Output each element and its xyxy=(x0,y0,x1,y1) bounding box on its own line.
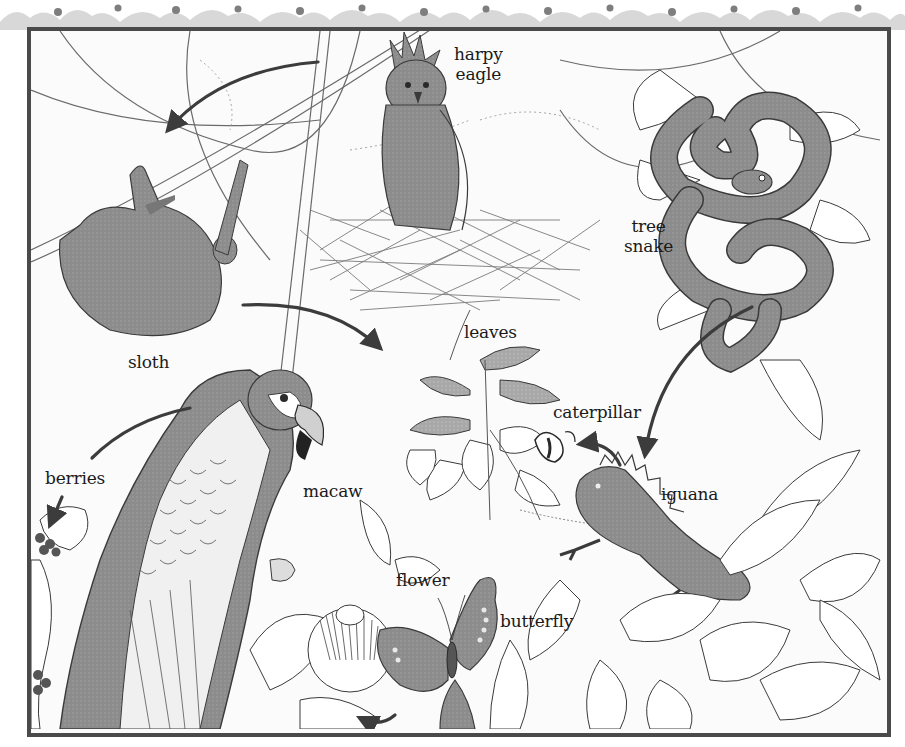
arrow-harpy-eagle-to-sloth xyxy=(168,62,318,130)
arrow-iguana-to-caterpillar xyxy=(580,443,620,465)
arrow-sloth-to-leaves xyxy=(243,305,380,348)
flower-illustration xyxy=(250,500,440,729)
label-macaw: macaw xyxy=(303,481,362,501)
label-caterpillar: caterpillar xyxy=(553,402,641,422)
label-leaves: leaves xyxy=(464,322,517,342)
label-harpy-eagle: harpy eagle xyxy=(454,44,503,84)
butterfly-illustration xyxy=(378,578,498,730)
food-web-illustration xyxy=(0,0,905,747)
label-tree-snake: tree snake xyxy=(624,216,673,256)
iguana-illustration xyxy=(560,452,750,610)
label-iguana: iguana xyxy=(661,484,718,504)
label-sloth: sloth xyxy=(128,352,169,372)
label-flower: flower xyxy=(396,570,450,590)
caterpillar-illustration xyxy=(535,432,575,462)
label-butterfly: butterfly xyxy=(500,611,573,631)
label-berries: berries xyxy=(45,468,105,488)
